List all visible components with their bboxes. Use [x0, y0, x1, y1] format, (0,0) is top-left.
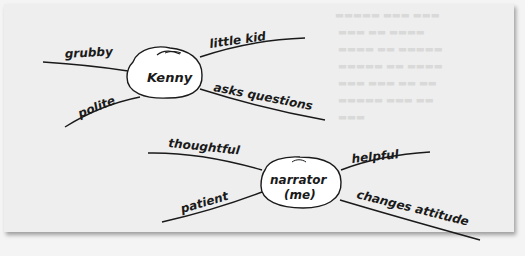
trait-patient: patient	[178, 189, 231, 217]
center-label-narrator: narrator	[270, 173, 328, 187]
trait-grubby: grubby	[64, 44, 114, 61]
line-grubby	[43, 62, 128, 71]
center-label-kenny: Kenny	[147, 70, 193, 85]
center-label-me: (me)	[284, 188, 316, 202]
line-thoughtful	[148, 153, 262, 170]
trait-little-kid: little kid	[208, 29, 267, 51]
trait-polite: polite	[75, 93, 117, 121]
trait-changes-attitude: changes attitude	[355, 187, 470, 228]
character-web-diagram: Kenny grubby little kid polite asks ques…	[0, 0, 525, 256]
trait-helpful: helpful	[351, 147, 400, 166]
trait-asks-questions: asks questions	[212, 80, 314, 113]
